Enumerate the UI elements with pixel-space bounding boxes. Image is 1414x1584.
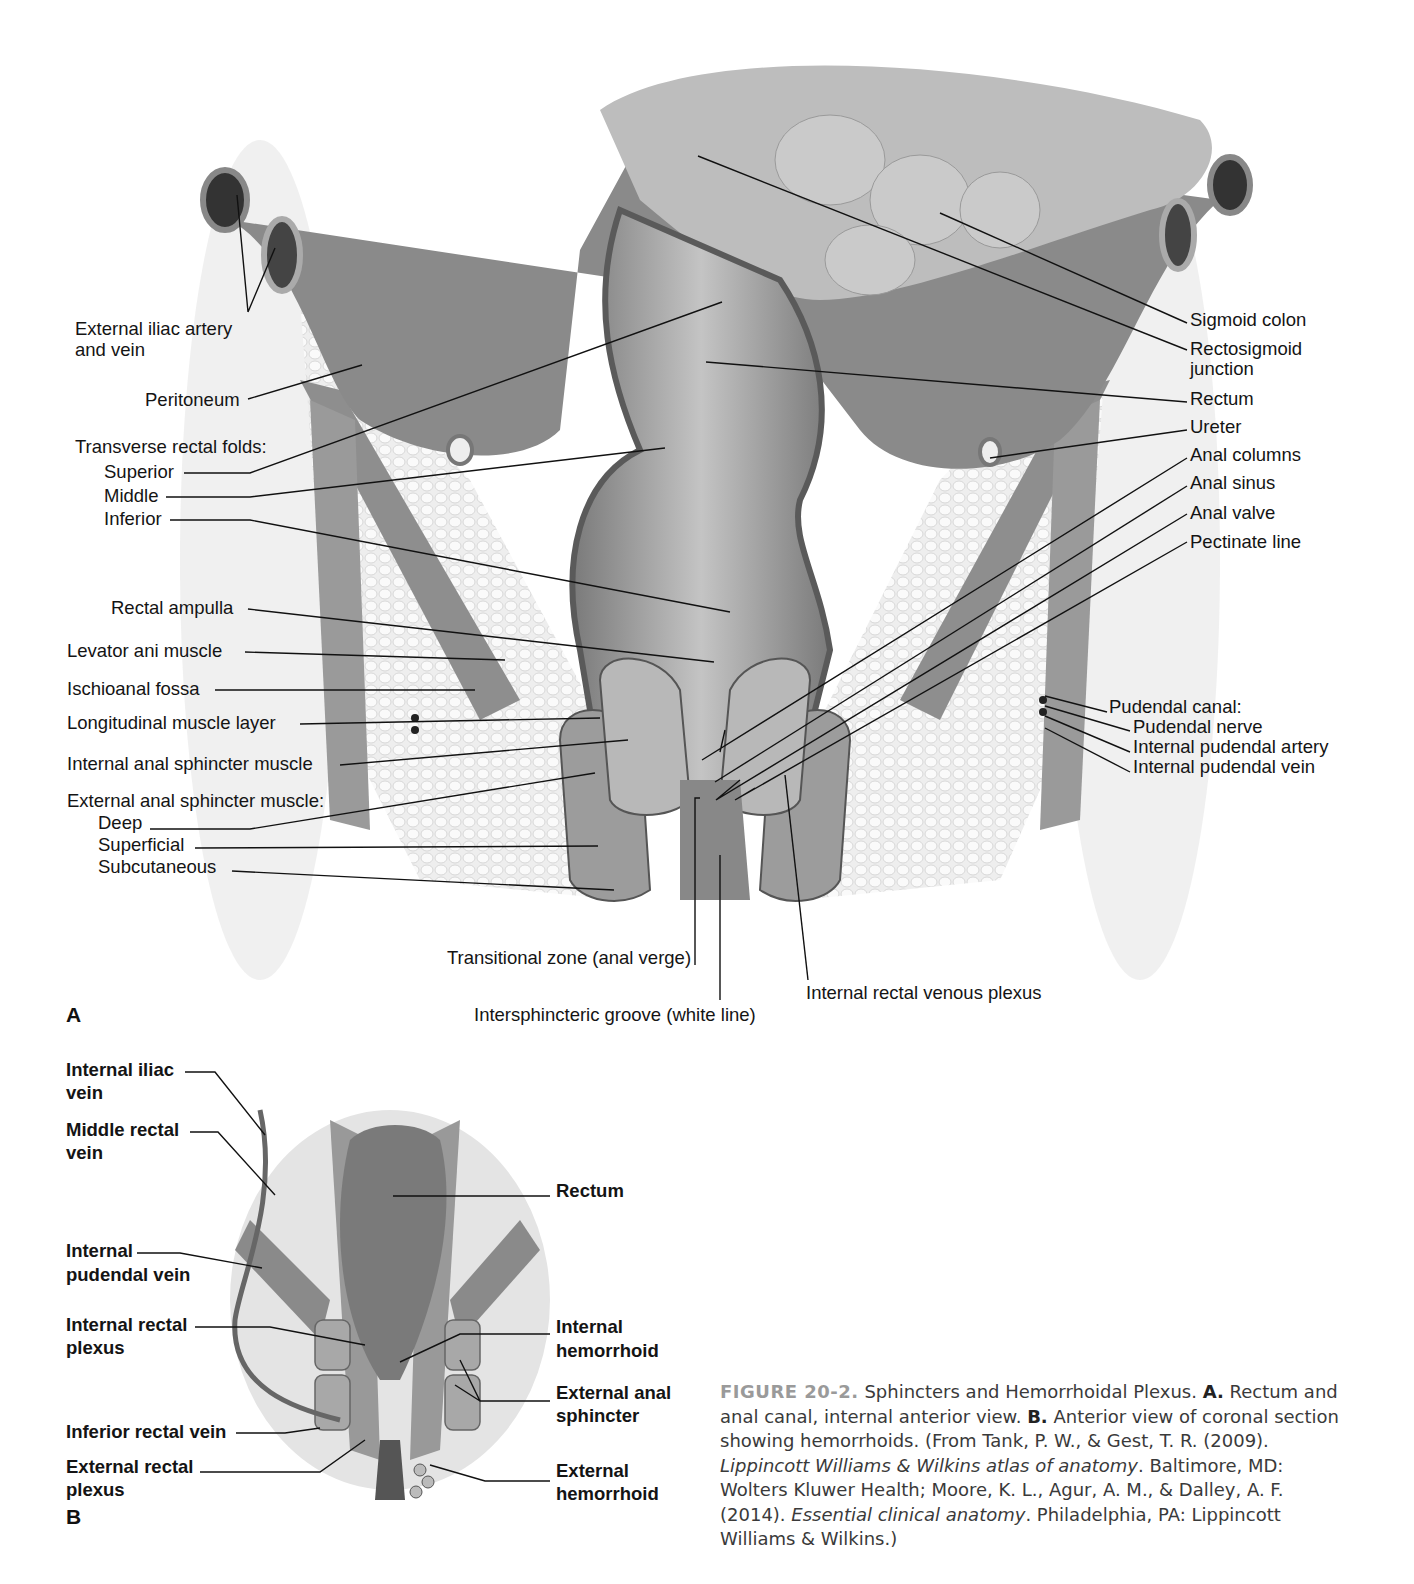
label-inferior: Inferior xyxy=(104,508,162,529)
label-external-rectal-plexus-1: External rectal xyxy=(66,1456,194,1477)
label-external-iliac-vein: and vein xyxy=(75,339,145,360)
label-internal-pudendal-vein: Internal pudendal vein xyxy=(1133,756,1315,777)
caption-b-marker: B. xyxy=(1027,1406,1048,1427)
label-ischioanal-fossa: Ischioanal fossa xyxy=(67,678,200,699)
caption-book-1: Lippincott Williams & Wilkins atlas of a… xyxy=(720,1455,1138,1476)
label-middle-rectal-vein-1: Middle rectal xyxy=(66,1119,179,1140)
caption-a-marker: A. xyxy=(1203,1381,1224,1402)
label-pectinate-line: Pectinate line xyxy=(1190,531,1301,552)
label-rectum: Rectum xyxy=(1190,388,1254,409)
label-internal-pudendal-vein-b-2: pudendal vein xyxy=(66,1264,190,1285)
label-internal-rectal-plexus-1: Internal rectal xyxy=(66,1314,187,1335)
label-internal-rectal-venous-plexus: Internal rectal venous plexus xyxy=(806,982,1042,1003)
panel-letter-b: B xyxy=(66,1505,81,1529)
label-internal-pudendal-artery: Internal pudendal artery xyxy=(1133,736,1328,757)
label-sigmoid-colon: Sigmoid colon xyxy=(1190,309,1306,330)
label-deep: Deep xyxy=(98,812,142,833)
label-anal-columns: Anal columns xyxy=(1190,444,1301,465)
label-external-rectal-plexus-2: plexus xyxy=(66,1479,125,1500)
label-internal-rectal-plexus-2: plexus xyxy=(66,1337,125,1358)
label-rectal-ampulla: Rectal ampulla xyxy=(111,597,233,618)
caption-title: Sphincters and Hemorrhoidal Plexus. xyxy=(859,1381,1203,1402)
label-external-iliac-artery: External iliac artery xyxy=(75,318,232,339)
caption-book-2: Essential clinical anatomy xyxy=(791,1504,1025,1525)
label-rectosigmoid-junction-1: Rectosigmoid xyxy=(1190,338,1302,359)
label-anal-sinus: Anal sinus xyxy=(1190,472,1275,493)
figure-caption: FIGURE 20-2. Sphincters and Hemorrhoidal… xyxy=(720,1380,1350,1552)
label-longitudinal-muscle-layer: Longitudinal muscle layer xyxy=(67,712,276,733)
label-internal-iliac-vein-1: Internal iliac xyxy=(66,1059,174,1080)
label-pudendal-canal: Pudendal canal: xyxy=(1109,696,1242,717)
label-ureter: Ureter xyxy=(1190,416,1241,437)
label-levator-ani: Levator ani muscle xyxy=(67,640,222,661)
label-internal-anal-sphincter: Internal anal sphincter muscle xyxy=(67,753,313,774)
label-anal-valve: Anal valve xyxy=(1190,502,1275,523)
label-inferior-rectal-vein: Inferior rectal vein xyxy=(66,1421,226,1442)
label-internal-hemorrhoid-1: Internal xyxy=(556,1316,623,1337)
label-peritoneum: Peritoneum xyxy=(145,389,240,410)
label-middle: Middle xyxy=(104,485,159,506)
label-external-hemorrhoid-1: External xyxy=(556,1460,629,1481)
label-intersphincteric-groove: Intersphincteric groove (white line) xyxy=(474,1004,756,1025)
label-external-hemorrhoid-2: hemorrhoid xyxy=(556,1483,659,1504)
label-rectosigmoid-junction-2: junction xyxy=(1190,358,1254,379)
label-middle-rectal-vein-2: vein xyxy=(66,1142,103,1163)
label-superior: Superior xyxy=(104,461,174,482)
label-transitional-zone: Transitional zone (anal verge) xyxy=(447,947,691,968)
label-internal-pudendal-vein-b-1: Internal xyxy=(66,1240,133,1261)
label-subcutaneous: Subcutaneous xyxy=(98,856,216,877)
label-external-anal-sphincter-b-2: sphincter xyxy=(556,1405,639,1426)
label-superficial: Superficial xyxy=(98,834,184,855)
label-external-anal-sphincter: External anal sphincter muscle: xyxy=(67,790,324,811)
label-pudendal-nerve: Pudendal nerve xyxy=(1133,716,1263,737)
label-internal-iliac-vein-2: vein xyxy=(66,1082,103,1103)
panel-letter-a: A xyxy=(66,1003,81,1027)
label-internal-hemorrhoid-2: hemorrhoid xyxy=(556,1340,659,1361)
figure-number: FIGURE 20-2. xyxy=(720,1381,859,1402)
label-external-anal-sphincter-b-1: External anal xyxy=(556,1382,671,1403)
label-transverse-rectal-folds: Transverse rectal folds: xyxy=(75,436,267,457)
label-rectum-b: Rectum xyxy=(556,1180,624,1201)
